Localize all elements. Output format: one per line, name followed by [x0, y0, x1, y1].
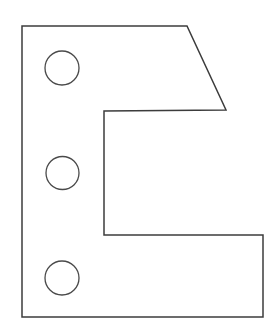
hole-middle-icon: [46, 157, 79, 190]
hole-bottom-icon: [45, 261, 79, 295]
drawing-canvas: [0, 0, 273, 334]
part-drawing-svg: [0, 0, 273, 334]
hole-top-icon: [45, 51, 79, 85]
